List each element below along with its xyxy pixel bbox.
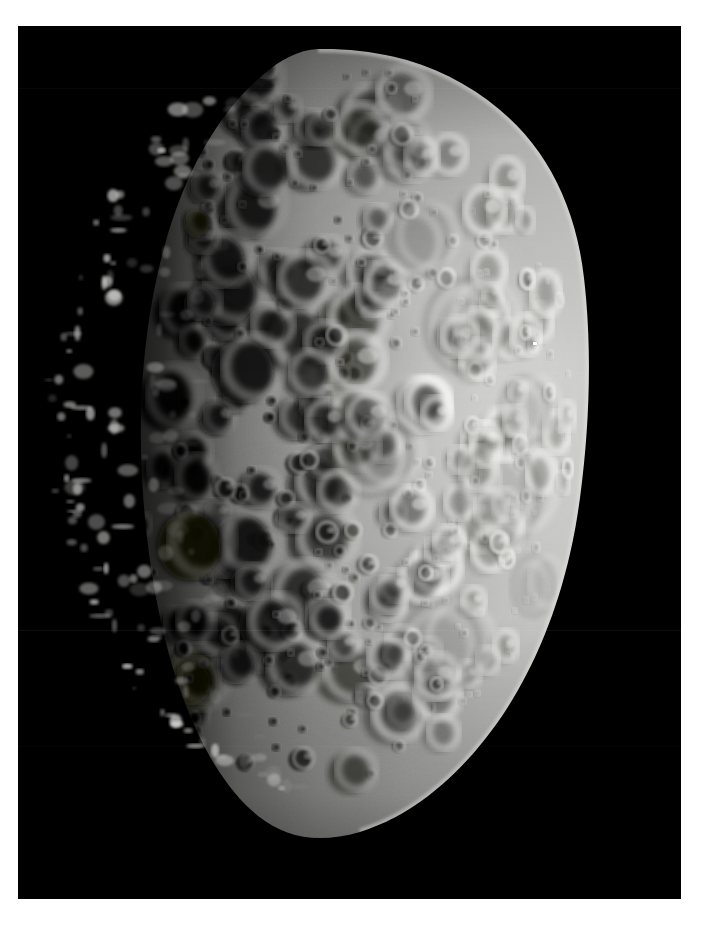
sunlit-peak: [88, 514, 105, 529]
detached-peak: [67, 539, 77, 545]
detached-peak: [199, 738, 205, 747]
sunlit-peak: [137, 624, 145, 631]
detached-peak: [52, 489, 59, 494]
sunlit-peak: [104, 563, 109, 575]
sunlit-peak: [142, 455, 148, 460]
sunlit-peak: [203, 139, 225, 146]
detached-peak: [184, 728, 193, 733]
sunlit-peak: [233, 651, 241, 659]
sunlit-peak: [73, 483, 82, 495]
sunlit-peak: [191, 379, 210, 383]
sunlit-peak: [97, 531, 110, 544]
detached-peak: [165, 713, 175, 717]
sunlit-peak: [108, 290, 121, 301]
detached-peak: [93, 219, 99, 225]
sunlit-peak: [257, 752, 267, 761]
sunlit-peak: [157, 323, 162, 336]
detached-peak: [116, 190, 125, 198]
detached-peak: [66, 500, 74, 503]
sunlit-peak: [110, 261, 116, 265]
sunlit-peak: [164, 429, 178, 442]
sunlit-peak: [169, 411, 176, 418]
sunlit-peak: [129, 574, 137, 583]
sunlit-peak: [137, 565, 151, 578]
sunlit-peak: [64, 332, 82, 336]
sunlit-peak: [182, 663, 195, 672]
sunlit-peak: [147, 636, 159, 643]
sunlit-peak: [159, 311, 175, 317]
sunlit-peak: [170, 721, 183, 728]
detached-peak: [64, 474, 69, 482]
sunlit-peak: [124, 494, 135, 508]
detached-peak: [60, 333, 67, 341]
sunlit-peak: [165, 176, 183, 190]
sunlit-peak: [210, 689, 221, 704]
sunlit-peak: [174, 165, 192, 178]
sunlit-peak: [203, 96, 216, 105]
detached-peak: [48, 395, 56, 403]
sunlit-peak: [225, 98, 241, 110]
sunlit-peak: [127, 258, 138, 267]
sunlit-peak: [73, 364, 93, 379]
detached-peak: [133, 687, 136, 690]
sunlit-peak: [157, 148, 166, 153]
detached-peak: [160, 709, 165, 717]
sunlit-peak: [191, 610, 200, 623]
sunlit-peak: [150, 627, 166, 635]
detached-peak: [151, 136, 162, 143]
sunlit-peak: [110, 214, 132, 220]
detached-peak: [105, 609, 113, 617]
sunlit-peak: [118, 464, 139, 476]
sunlit-peak: [216, 172, 231, 181]
detached-peak: [45, 379, 54, 382]
sunlit-peak: [188, 412, 196, 418]
sunlit-peak: [210, 658, 224, 667]
sunlit-peak: [168, 487, 184, 496]
sunlit-peak: [159, 267, 170, 277]
sunlit-peak: [107, 270, 114, 283]
sunlit-peak: [111, 524, 134, 529]
sunlit-peak: [154, 378, 177, 388]
sunlit-peak: [150, 374, 156, 389]
sunlit-peak: [149, 432, 166, 444]
sunlit-peak: [158, 545, 173, 561]
photo-plate: [18, 26, 681, 899]
detached-peak: [136, 669, 144, 675]
sunlit-peak: [86, 407, 95, 421]
detached-peak: [76, 503, 85, 511]
sunlit-peak: [77, 307, 83, 315]
cosmic-ray-dot: [533, 342, 537, 345]
sunlit-peak: [251, 91, 259, 101]
sunlit-peak: [188, 548, 195, 555]
sunlit-peak: [203, 595, 220, 604]
sunlit-peak: [112, 619, 117, 633]
sunlit-peak: [197, 260, 203, 273]
sunlit-peak: [187, 442, 199, 446]
sunlit-peak: [130, 583, 150, 597]
sunlit-peak: [101, 442, 107, 458]
sunlit-peak: [118, 575, 130, 587]
sunlit-peak: [178, 621, 191, 632]
sunlit-peak: [250, 102, 266, 111]
sunlit-peak: [167, 522, 189, 538]
sunlit-peak: [122, 664, 132, 669]
sunlit-peak: [103, 254, 110, 262]
sunlit-peak: [54, 375, 63, 385]
detached-peak: [57, 412, 65, 421]
sunlit-peak: [182, 102, 203, 118]
sunlit-peak: [147, 362, 164, 372]
detached-peak: [66, 349, 72, 353]
sunlit-peak: [157, 503, 179, 515]
sunlit-peak: [90, 599, 99, 604]
moon-image: [18, 26, 681, 899]
sunlit-peak: [142, 207, 150, 216]
sunlit-peak: [101, 276, 107, 291]
sunlit-peak: [149, 478, 159, 492]
sunlit-peak: [252, 733, 267, 739]
photo-page: heavily cratered icy moon, gibbous phase: [0, 0, 719, 928]
sunlit-peak: [190, 290, 204, 304]
detached-peak: [278, 786, 285, 790]
sunlit-peak: [267, 773, 281, 786]
sunlit-peak: [110, 228, 127, 233]
sunlit-peak: [180, 309, 193, 320]
